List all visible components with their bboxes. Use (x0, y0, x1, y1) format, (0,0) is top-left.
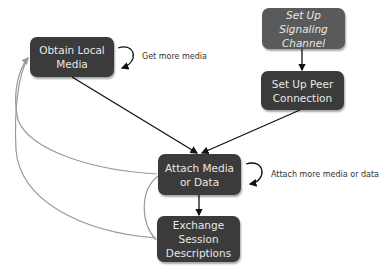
loop-obtain (118, 47, 133, 68)
node-attach-media-or-data: Attach Media or Data (158, 154, 241, 195)
node-exchange-session-descriptions: Exchange Session Descriptions (157, 216, 240, 262)
loop-label-attach-more: Attach more media or data (271, 170, 379, 179)
node-label: Exchange Session Descriptions (161, 218, 236, 260)
node-set-up-peer-connection: Set Up Peer Connection (261, 71, 344, 110)
node-obtain-local-media: Obtain Local Media (30, 37, 114, 77)
node-label: Set Up Peer Connection (265, 77, 340, 105)
edge-exchange-attach (144, 176, 158, 240)
edge-obtain-attach (72, 77, 197, 153)
edge-peer-attach (202, 110, 300, 153)
node-set-up-signaling-channel: Set Up Signaling Channel (262, 8, 345, 49)
node-label: Obtain Local Media (34, 43, 110, 71)
node-label: Attach Media or Data (162, 161, 237, 189)
loop-label-get-more-media: Get more media (142, 52, 207, 61)
loop-attach (246, 163, 262, 184)
node-label: Set Up Signaling Channel (266, 8, 341, 50)
